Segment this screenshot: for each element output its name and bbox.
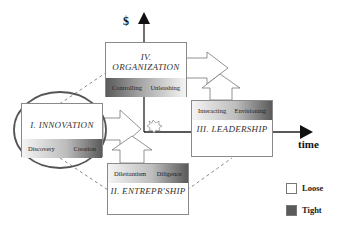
y-axis-label: $ xyxy=(123,14,129,29)
bar-label-right: Unleashing xyxy=(150,84,180,91)
quadrant-entrepreneurship: Dilettantism Diligence II. ENTREPR'SHIP xyxy=(107,163,189,215)
bar-label-left: Controlling xyxy=(112,84,142,91)
bar-label-left: Dilettantism xyxy=(114,170,146,177)
legend-label-tight: Tight xyxy=(302,205,322,215)
quadrant-innovation: I. INNOVATION Discovery Creation xyxy=(21,103,103,157)
bar-label-left: Interacting xyxy=(198,107,226,114)
quadrant-bar: Controlling Unleashing xyxy=(106,78,186,97)
quadrant-title: III. LEADERSHIP xyxy=(192,124,272,134)
quadrant-bar: Interacting Envisioning xyxy=(192,101,272,120)
quadrant-title: I. INNOVATION xyxy=(22,120,102,130)
quadrant-bar: Dilettantism Diligence xyxy=(108,164,188,183)
quadrant-leadership: Interacting Envisioning III. LEADERSHIP xyxy=(191,100,273,157)
x-axis-label: time xyxy=(298,138,319,150)
quadrant-title: II. ENTREPR'SHIP xyxy=(108,186,188,196)
legend-label-loose: Loose xyxy=(302,183,323,193)
starburst-icon xyxy=(147,120,162,133)
bar-label-right: Envisioning xyxy=(235,107,266,114)
bar-label-left: Discovery xyxy=(28,145,55,152)
legend-swatch-tight xyxy=(286,205,297,216)
bar-label-right: Creation xyxy=(74,145,96,152)
quadrant-organization: IV. ORGANIZATION Controlling Unleashing xyxy=(105,42,187,97)
legend-swatch-loose xyxy=(286,183,297,194)
quadrant-bar: Discovery Creation xyxy=(22,139,102,158)
bar-label-right: Diligence xyxy=(157,170,182,177)
quadrant-title: IV. ORGANIZATION xyxy=(106,52,186,72)
